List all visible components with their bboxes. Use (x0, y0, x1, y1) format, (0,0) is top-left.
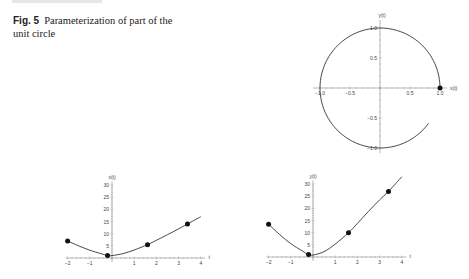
y-axis-label: y(t) (309, 173, 317, 179)
tick-label: 15 (103, 219, 109, 225)
x-of-t-chart: −2−1123451015202530x(t)t (65, 174, 211, 266)
tick-label: 1 (334, 259, 337, 265)
tick-label: −1 (87, 260, 93, 266)
tick-label: −0.5 (367, 115, 377, 121)
circle-chart: −1.0−0.50.51.01.00.5−0.5−1.0y(t)x(t) (313, 12, 458, 153)
tick-label: 1 (133, 260, 136, 266)
x-axis-label: t (410, 253, 412, 259)
tick-label: 30 (304, 181, 310, 187)
tick-label: 20 (304, 205, 310, 211)
tick-label: 2 (356, 259, 359, 265)
tick-label: 4 (400, 259, 403, 265)
tick-label: 25 (103, 194, 109, 200)
tick-label: 25 (304, 193, 310, 199)
tick-label: 5 (106, 243, 109, 249)
tick-label: −2 (65, 260, 71, 266)
tick-label: 2 (155, 260, 158, 266)
tick-label: 3 (378, 259, 381, 265)
x-axis-label: x(t) (450, 85, 458, 91)
data-point (438, 86, 443, 91)
tick-label: 4 (199, 260, 202, 266)
figure-canvas: −1.0−0.50.51.01.00.5−0.5−1.0y(t)x(t)−2−1… (0, 0, 469, 279)
data-point (266, 222, 271, 227)
tick-label: 15 (304, 218, 310, 224)
tick-label: −1 (288, 259, 294, 265)
data-point (386, 189, 391, 194)
data-point (346, 230, 351, 235)
tick-label: 0.5 (370, 55, 377, 61)
data-point (306, 252, 311, 257)
y-axis-label: x(t) (108, 174, 116, 180)
tick-label: 10 (304, 230, 310, 236)
tick-label: 10 (103, 231, 109, 237)
y-of-t-chart: −2−1123451015202530y(t)t (266, 173, 412, 265)
tick-label: 20 (103, 206, 109, 212)
function-curve (68, 217, 201, 256)
x-axis-label: t (209, 254, 211, 260)
tick-label: 5 (307, 242, 310, 248)
tick-label: 0.5 (407, 90, 414, 96)
tick-label: −2 (266, 259, 272, 265)
data-point (185, 221, 190, 226)
data-point (145, 242, 150, 247)
y-axis-label: y(t) (378, 12, 386, 18)
tick-label: 1.0 (437, 90, 444, 96)
function-curve (269, 177, 402, 255)
tick-label: −0.5 (345, 90, 355, 96)
data-point (65, 238, 70, 243)
tick-label: 30 (103, 182, 109, 188)
tick-label: 3 (177, 260, 180, 266)
data-point (105, 253, 110, 258)
